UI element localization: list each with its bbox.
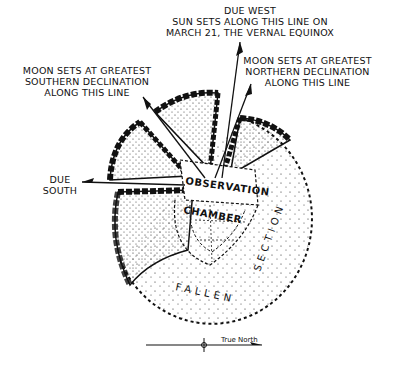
- moon-north-line-3: ALONG THIS LINE: [230, 77, 385, 88]
- moon-south-line-3: ALONG THIS LINE: [12, 87, 162, 98]
- due-south-line-1: DUE: [35, 174, 85, 185]
- moon-north-line-2: NORTHERN DECLINATION: [230, 66, 385, 77]
- moon-north-label: MOON SETS AT GREATEST NORTHERN DECLINATI…: [230, 55, 385, 88]
- due-south-line: [82, 182, 185, 185]
- moon-south-label: MOON SETS AT GREATEST SOUTHERN DECLINATI…: [12, 65, 162, 98]
- sun-line-2: MARCH 21, THE VERNAL EQUINOX: [150, 27, 350, 38]
- sun-line-1: SUN SETS ALONG THIS LINE ON: [150, 16, 350, 27]
- due-west-title: DUE WEST: [150, 5, 350, 16]
- moon-north-line-1: MOON SETS AT GREATEST: [230, 55, 385, 66]
- true-north-label: True North: [220, 336, 258, 344]
- due-south-line-2: SOUTH: [35, 185, 85, 196]
- due-south-label: DUE SOUTH: [35, 174, 85, 196]
- moon-south-line-1: MOON SETS AT GREATEST: [12, 65, 162, 76]
- true-north-indicator: True North: [146, 336, 262, 352]
- due-west-label: DUE WEST SUN SETS ALONG THIS LINE ON MAR…: [150, 5, 350, 38]
- moon-south-line-2: SOUTHERN DECLINATION: [12, 76, 162, 87]
- due-west-arrowhead: [236, 42, 243, 56]
- moon-south-arrowhead: [143, 97, 151, 110]
